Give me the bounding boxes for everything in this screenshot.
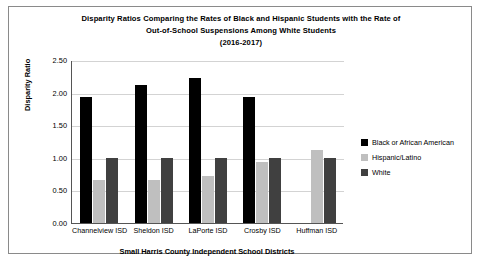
bar [161, 158, 173, 223]
chart-container: Disparity Ratios Comparing the Rates of … [8, 6, 472, 254]
y-tick-label: 0.00 [37, 219, 67, 228]
bar-group-bars [290, 60, 344, 223]
bar [189, 78, 201, 223]
legend-item[interactable]: White [361, 165, 454, 180]
legend-swatch [361, 139, 368, 146]
bar-group: Crosby ISD [235, 60, 289, 223]
y-tick-label: 1.00 [37, 154, 67, 163]
x-tick-label: LaPorte ISD [181, 226, 235, 235]
legend-label: Black or African American [372, 135, 454, 150]
chart-title-line-1: Disparity Ratios Comparing the Rates of … [49, 13, 433, 25]
x-axis-title: Small Harris County Independent School D… [71, 247, 343, 256]
y-tick-label: 2.50 [37, 56, 67, 65]
bar-group-bars [235, 60, 289, 223]
bar [324, 158, 336, 223]
x-tick-label: Crosby ISD [235, 226, 289, 235]
y-tick-label: 0.50 [37, 186, 67, 195]
plot-area: Channelview ISDSheldon ISDLaPorte ISDCro… [71, 61, 343, 224]
bar-group: Sheldon ISD [126, 60, 180, 223]
bar-group-bars [72, 60, 126, 223]
legend-swatch [361, 154, 368, 161]
legend-item[interactable]: Black or African American [361, 135, 454, 150]
y-axis-title: Disparity Ratio [23, 59, 32, 111]
y-tick-label: 1.50 [37, 121, 67, 130]
legend-item[interactable]: Hispanic/Latino [361, 150, 454, 165]
y-tick-label: 2.00 [37, 89, 67, 98]
bar [215, 158, 227, 223]
bar-group-bars [126, 60, 180, 223]
chart-title: Disparity Ratios Comparing the Rates of … [49, 13, 433, 49]
bar [311, 150, 323, 223]
bar-group: Channelview ISD [72, 60, 126, 223]
x-tick-label: Channelview ISD [72, 226, 126, 235]
chart-title-line-3: (2016-2017) [49, 37, 433, 49]
legend-label: Hispanic/Latino [372, 150, 421, 165]
bar [148, 180, 160, 223]
bar [106, 158, 118, 223]
x-tick-label: Sheldon ISD [126, 226, 180, 235]
legend-swatch [361, 169, 368, 176]
bar [93, 180, 105, 223]
bar-group-bars [181, 60, 235, 223]
bar [80, 97, 92, 223]
bar-group: LaPorte ISD [181, 60, 235, 223]
bar-group: Huffman ISD [290, 60, 344, 223]
bar [202, 176, 214, 223]
chart-title-line-2: Out-of-School Suspensions Among White St… [49, 25, 433, 37]
chart-legend: Black or African AmericanHispanic/Latino… [361, 135, 454, 180]
x-tick-label: Huffman ISD [290, 226, 344, 235]
bar [269, 158, 281, 223]
bar [243, 97, 255, 223]
bar [135, 85, 147, 223]
bar [256, 162, 268, 223]
legend-label: White [372, 165, 390, 180]
